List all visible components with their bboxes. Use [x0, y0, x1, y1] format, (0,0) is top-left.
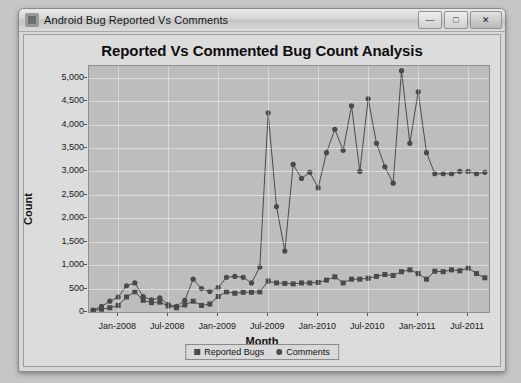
- y-axis-tick-mark: [84, 311, 87, 312]
- data-point: [232, 274, 237, 279]
- gridline-vertical: [368, 66, 369, 312]
- data-point: [232, 291, 237, 296]
- data-point: [182, 302, 187, 307]
- data-point: [374, 141, 379, 146]
- x-axis-tick-label: Jul-2008: [150, 321, 185, 331]
- x-axis-tick-label: Jan-2011: [399, 321, 436, 331]
- data-point: [482, 275, 487, 280]
- legend-label: Reported Bugs: [204, 347, 264, 357]
- window-controls: — □ ✕: [418, 11, 502, 29]
- y-axis-tick-label: 3,000: [40, 165, 84, 175]
- x-axis-tick-mark: [367, 313, 368, 316]
- close-button[interactable]: ✕: [470, 11, 502, 29]
- y-axis-tick-label: 2,000: [40, 212, 84, 222]
- legend-label: Comments: [286, 347, 330, 357]
- chart-title: Reported Vs Commented Bug Count Analysis: [24, 42, 500, 59]
- data-point: [257, 289, 262, 294]
- y-axis-title: Count: [22, 193, 34, 225]
- y-axis-tick-mark: [84, 100, 87, 101]
- gridline-horizontal: [89, 265, 489, 266]
- y-axis-tick-mark: [84, 217, 87, 218]
- data-point: [291, 281, 296, 286]
- data-point: [199, 303, 204, 308]
- data-point: [241, 290, 246, 295]
- circle-marker-icon: [276, 349, 282, 355]
- gridline-vertical: [218, 66, 219, 312]
- gridline-horizontal: [89, 289, 489, 290]
- data-point: [274, 280, 279, 285]
- y-axis-tick-mark: [84, 288, 87, 289]
- data-point: [432, 269, 437, 274]
- app-icon: [25, 13, 39, 27]
- data-point: [182, 298, 187, 303]
- data-point: [399, 269, 404, 274]
- maximize-button[interactable]: □: [444, 11, 468, 29]
- gridline-horizontal: [89, 101, 489, 102]
- data-point: [224, 275, 229, 280]
- data-point: [382, 164, 387, 169]
- data-point: [249, 290, 254, 295]
- data-point: [191, 299, 196, 304]
- y-axis-ticks: 05001,0001,5002,0002,5003,0003,5004,0004…: [38, 59, 84, 355]
- legend-item-comments[interactable]: Comments: [276, 347, 330, 357]
- gridline-vertical: [318, 66, 319, 312]
- data-point: [407, 141, 412, 146]
- y-axis-tick-label: 4,500: [40, 95, 84, 105]
- desktop-background: Android Bug Reported Vs Comments — □ ✕ R…: [0, 0, 521, 383]
- data-point: [132, 280, 137, 285]
- data-point: [382, 272, 387, 277]
- data-point: [332, 274, 337, 279]
- data-point: [332, 127, 337, 132]
- data-point: [207, 289, 212, 294]
- data-point: [149, 297, 154, 302]
- y-axis-tick-label: 1,500: [40, 236, 84, 246]
- data-point: [124, 295, 129, 300]
- data-point: [324, 278, 329, 283]
- gridline-horizontal: [89, 195, 489, 196]
- y-axis-tick-mark: [84, 77, 87, 78]
- chart-container: Count 05001,0001,5002,0002,5003,0003,500…: [24, 59, 500, 355]
- data-point: [399, 68, 404, 73]
- gridline-vertical: [168, 66, 169, 312]
- y-axis-tick-label: 500: [40, 283, 84, 293]
- data-point: [207, 302, 212, 307]
- x-axis-tick-mark: [217, 313, 218, 316]
- y-axis-tick-label: 5,000: [40, 72, 84, 82]
- x-axis-tick-label: Jan-2009: [198, 321, 236, 331]
- data-point: [99, 304, 104, 309]
- y-axis-tick-mark: [84, 241, 87, 242]
- legend-item-reported-bugs[interactable]: Reported Bugs: [194, 347, 264, 357]
- y-axis-tick-mark: [84, 194, 87, 195]
- window-titlebar[interactable]: Android Bug Reported Vs Comments — □ ✕: [19, 9, 505, 32]
- data-point: [157, 295, 162, 300]
- data-point: [291, 162, 296, 167]
- gridline-vertical: [118, 66, 119, 312]
- x-axis-tick-mark: [417, 313, 418, 316]
- x-axis-tick-mark: [467, 313, 468, 316]
- data-point: [357, 277, 362, 282]
- data-point: [349, 277, 354, 282]
- x-axis-tick-label: Jul-2010: [350, 321, 385, 331]
- x-axis-tick-label: Jul-2011: [450, 321, 484, 331]
- gridline-horizontal: [89, 312, 489, 313]
- square-marker-icon: [194, 349, 200, 355]
- minimize-button[interactable]: —: [418, 11, 442, 29]
- y-axis-tick-label: 1,000: [40, 259, 84, 269]
- y-axis-tick-label: 3,500: [40, 142, 84, 152]
- gridline-horizontal: [89, 218, 489, 219]
- data-point: [341, 280, 346, 285]
- data-point: [441, 269, 446, 274]
- data-point: [299, 280, 304, 285]
- data-point: [457, 268, 462, 273]
- data-point: [132, 289, 137, 294]
- data-point: [141, 294, 146, 299]
- y-axis-tick-mark: [84, 264, 87, 265]
- y-axis-tick-label: 2,500: [40, 189, 84, 199]
- gridline-horizontal: [89, 242, 489, 243]
- application-window: Android Bug Reported Vs Comments — □ ✕ R…: [18, 8, 506, 372]
- window-title: Android Bug Reported Vs Comments: [44, 14, 228, 26]
- gridline-vertical: [418, 66, 419, 312]
- y-axis-tick-mark: [84, 124, 87, 125]
- gridline-horizontal: [89, 148, 489, 149]
- data-point: [274, 204, 279, 209]
